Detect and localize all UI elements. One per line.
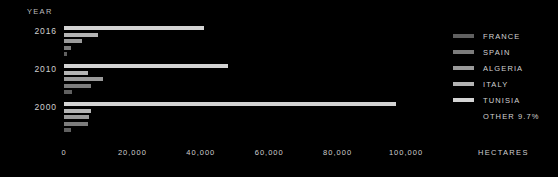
legend-other-note: OTHER 9.7% [483,112,555,121]
bar-spain-2016 [64,46,71,50]
x-axis-tick-label: 100,000 [389,148,423,157]
bar-algeria-2000 [64,115,89,119]
legend-swatch-icon [453,34,474,38]
chart-root: YEAR 201620102000 020,00040,00060,00080,… [0,0,558,177]
legend-label: ITALY [483,80,508,89]
bar-group-label: 2016 [34,26,57,36]
bar-fill [64,115,89,119]
legend-item-algeria[interactable]: ALGERIA [453,60,555,76]
legend-swatch-icon [453,98,474,102]
y-axis-title: YEAR [27,7,53,16]
bar-fill [64,39,82,43]
bar-spain-2000 [64,122,88,126]
legend-swatch-icon [453,50,474,54]
bar-tunisia-2010 [64,64,228,68]
x-axis: 020,00040,00060,00080,000100,000 [64,148,406,162]
bar-fill [64,109,91,113]
bar-fill [64,84,91,88]
bar-fill [64,77,103,81]
bar-italy-2010 [64,71,88,75]
bar-spain-2010 [64,84,91,88]
plot-area: 201620102000 [64,22,406,140]
x-axis-tick-label: 0 [61,148,66,157]
legend-item-italy[interactable]: ITALY [453,76,555,92]
x-axis-tick-label: 20,000 [118,148,147,157]
bar-italy-2016 [64,33,98,37]
bar-group-label: 2000 [34,102,57,112]
bar-fill [64,90,72,94]
legend-label: FRANCE [483,32,520,41]
bar-fill [64,128,71,132]
bar-fill [64,122,88,126]
bar-fill [64,46,71,50]
bar-fill [64,26,204,30]
x-axis-tick-label: 80,000 [323,148,352,157]
legend-item-tunisia[interactable]: TUNISIA [453,92,555,108]
bar-france-2010 [64,90,72,94]
legend-item-france[interactable]: FRANCE [453,28,555,44]
bar-tunisia-2000 [64,102,396,106]
bar-algeria-2010 [64,77,103,81]
legend-item-spain[interactable]: SPAIN [453,44,555,60]
bar-tunisia-2016 [64,26,204,30]
legend-label: SPAIN [483,48,510,57]
bar-fill [64,33,98,37]
legend-swatch-icon [453,66,474,70]
legend: FRANCESPAINALGERIAITALYTUNISIAOTHER 9.7% [453,28,555,121]
legend-label: ALGERIA [483,64,523,73]
x-axis-tick-label: 40,000 [186,148,215,157]
bar-algeria-2016 [64,39,82,43]
bar-italy-2000 [64,109,91,113]
bar-fill [64,71,88,75]
bar-fill [64,102,396,106]
x-axis-tick-label: 60,000 [255,148,284,157]
legend-label: TUNISIA [483,96,520,105]
bar-fill [64,64,228,68]
bar-group-label: 2010 [34,64,57,74]
x-axis-unit-label: HECTARES [478,148,529,157]
bar-fill [64,52,67,56]
bar-france-2016 [64,52,67,56]
bar-france-2000 [64,128,71,132]
legend-swatch-icon [453,82,474,86]
